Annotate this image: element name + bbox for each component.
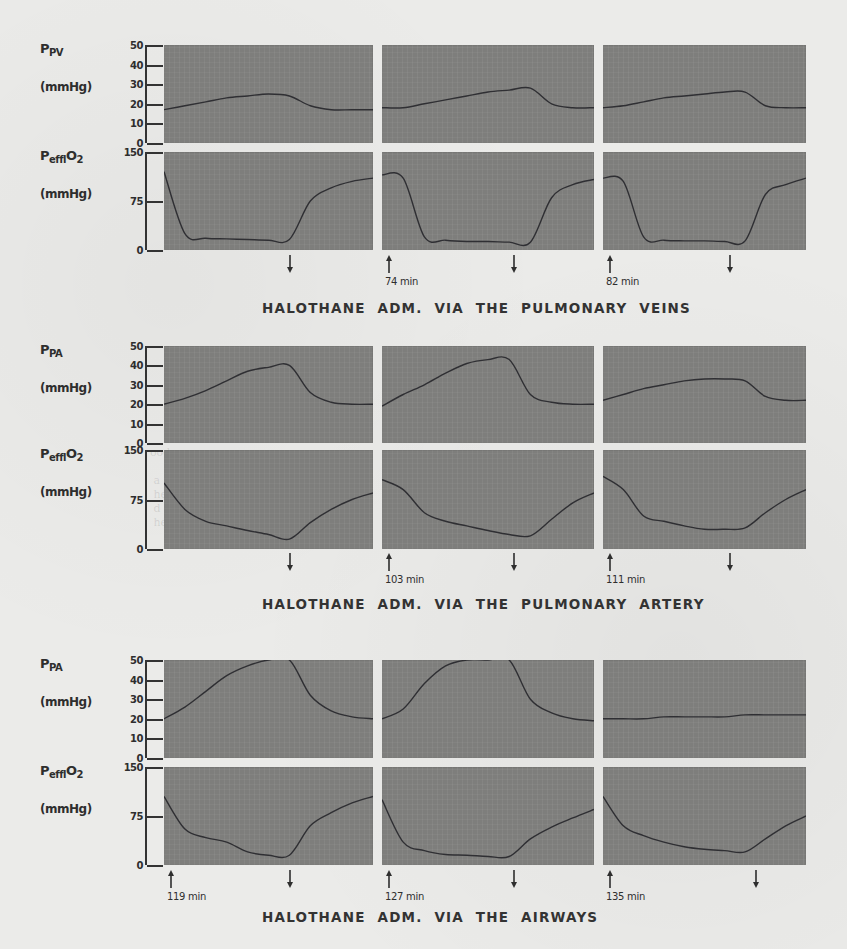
y-axis-label-effluent-po2: PefflO2	[40, 446, 83, 463]
trace-line	[382, 660, 594, 758]
pressure-trace-panel	[603, 45, 806, 143]
y-tick	[147, 84, 163, 86]
y-tick	[147, 738, 163, 740]
y-tick	[147, 500, 163, 502]
y-axis-pressure: 50403020100	[145, 660, 163, 758]
po2-gas-subscript: 2	[77, 154, 83, 165]
y-axis-label-effluent-po2: PefflO2	[40, 148, 83, 165]
y-tick-label: 30	[130, 694, 143, 705]
po2-symbol: P	[40, 148, 49, 163]
pressure-symbol: P	[40, 656, 49, 671]
y-tick-label: 75	[130, 494, 143, 505]
trace-line	[382, 450, 594, 549]
y-tick-label: 0	[137, 245, 143, 256]
y-axis-po2: 150750	[145, 767, 163, 865]
stop-arrow-down-icon	[509, 255, 519, 273]
y-tick-label: 150	[124, 445, 143, 456]
start-arrow-up-icon	[166, 870, 176, 888]
stop-arrow-down-icon	[285, 870, 295, 888]
pressure-trace-panel	[603, 346, 806, 443]
start-arrow-up-icon	[384, 553, 394, 571]
po2-unit: (mmHg)	[40, 187, 92, 201]
y-tick	[147, 385, 163, 387]
trace-line	[164, 660, 373, 758]
po2-unit: (mmHg)	[40, 485, 92, 499]
y-tick-label: 20	[130, 713, 143, 724]
po2-subscript: effl	[49, 769, 66, 780]
y-tick	[147, 45, 163, 47]
po2-gas-subscript: 2	[77, 452, 83, 463]
figure-halothane-pressure-po2: PPV(mmHg)PefflO2(mmHg)504030201001507507…	[0, 0, 847, 949]
y-tick	[147, 767, 163, 769]
pressure-subscript: PV	[49, 47, 63, 58]
y-tick	[147, 816, 163, 818]
y-tick	[147, 719, 163, 721]
trace-line	[603, 660, 806, 758]
po2-trace-panel	[382, 767, 594, 865]
po2-gas: O	[66, 446, 77, 461]
y-tick-label: 150	[124, 762, 143, 773]
y-tick-label: 75	[130, 196, 143, 207]
po2-subscript: effl	[49, 154, 66, 165]
y-tick-label: 0	[137, 860, 143, 871]
time-marker-label: 119 min	[167, 891, 206, 902]
y-tick	[147, 365, 163, 367]
y-tick-label: 40	[130, 360, 143, 371]
po2-subscript: effl	[49, 452, 66, 463]
pressure-subscript: PA	[49, 662, 62, 673]
po2-trace-panel	[603, 152, 806, 250]
po2-trace-panel	[382, 450, 594, 549]
trace-line	[164, 152, 373, 250]
y-tick	[147, 424, 163, 426]
pressure-trace-panel	[382, 45, 594, 143]
time-marker-label: 111 min	[606, 574, 645, 585]
y-axis-label-pressure: PPA	[40, 656, 62, 673]
stop-arrow-down-icon	[725, 255, 735, 273]
stop-arrow-down-icon	[285, 553, 295, 571]
trace-line	[382, 346, 594, 443]
pressure-subscript: PA	[49, 348, 62, 359]
section-caption: HALOTHANE ADM. VIA THE AIRWAYS	[262, 909, 598, 925]
trace-line	[382, 767, 594, 865]
trace-line	[603, 152, 806, 250]
pressure-trace-panel	[382, 346, 594, 443]
y-tick	[147, 443, 163, 445]
y-tick	[147, 450, 163, 452]
y-axis-po2: 150750	[145, 152, 163, 250]
po2-trace-panel	[603, 767, 806, 865]
y-tick-label: 40	[130, 674, 143, 685]
po2-trace-panel	[164, 767, 373, 865]
y-tick-label: 40	[130, 59, 143, 70]
y-tick-label: 30	[130, 79, 143, 90]
y-tick	[147, 549, 163, 551]
po2-gas-subscript: 2	[77, 769, 83, 780]
time-marker-label: 74 min	[385, 276, 418, 287]
pressure-trace-panel	[164, 660, 373, 758]
y-axis-label-pressure: PPV	[40, 41, 63, 58]
trace-line	[603, 45, 806, 143]
pressure-trace-panel	[164, 45, 373, 143]
po2-trace-panel	[603, 450, 806, 549]
y-tick	[147, 104, 163, 106]
pressure-symbol: P	[40, 342, 49, 357]
y-axis-label-effluent-po2: PefflO2	[40, 763, 83, 780]
po2-gas: O	[66, 148, 77, 163]
y-tick-label: 50	[130, 40, 143, 51]
y-tick-label: 0	[137, 544, 143, 555]
time-marker-label: 82 min	[606, 276, 639, 287]
trace-line	[382, 152, 594, 250]
y-axis-pressure: 50403020100	[145, 45, 163, 143]
po2-symbol: P	[40, 446, 49, 461]
y-tick-label: 10	[130, 418, 143, 429]
start-arrow-up-icon	[384, 870, 394, 888]
section-caption: HALOTHANE ADM. VIA THE PULMONARY ARTERY	[262, 596, 705, 612]
trace-line	[603, 767, 806, 865]
po2-trace-panel	[164, 450, 373, 549]
pressure-trace-panel	[164, 346, 373, 443]
y-tick	[147, 143, 163, 145]
po2-trace-panel	[382, 152, 594, 250]
pressure-symbol: P	[40, 41, 49, 56]
po2-symbol: P	[40, 763, 49, 778]
y-axis-po2: 150750	[145, 450, 163, 549]
time-marker-label: 103 min	[385, 574, 424, 585]
